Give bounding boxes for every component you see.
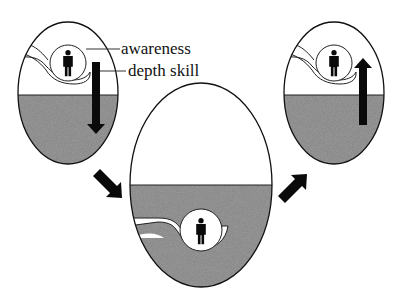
label-depth-skill: depth skill: [128, 62, 199, 79]
diagram: awareness depth skill: [0, 0, 401, 304]
stage-surface: [16, 22, 126, 165]
label-awareness: awareness: [121, 40, 191, 57]
arrow-up-right-icon: [278, 174, 307, 203]
stage-return: [282, 22, 385, 165]
stage-depth: [128, 83, 272, 290]
arrow-down-right-icon: [93, 169, 122, 198]
